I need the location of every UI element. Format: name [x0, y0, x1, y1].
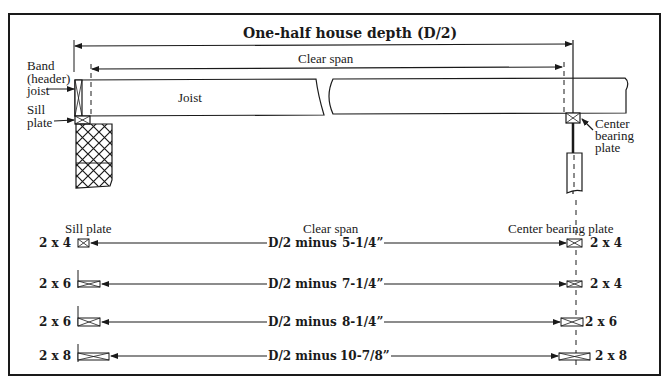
row3-center-size: 2 x 6: [585, 316, 617, 328]
clear-span-dimension-line: [92, 67, 562, 69]
row4-sill-size: 2 x 8: [39, 350, 71, 362]
header-sill-plate: Sill plate: [65, 222, 112, 235]
foundation-wall: [76, 124, 112, 188]
header-clear-span: Clear span: [303, 222, 358, 235]
center-bearing-label-line3: plate: [595, 141, 620, 154]
row3-clear-span-prefix: D/2 minus: [267, 316, 338, 328]
row1-center-size: 2 x 4: [590, 237, 622, 249]
row1-clear-span-prefix: D/2 minus: [267, 237, 338, 249]
row3-clear-span-value: 8-1/4”: [341, 316, 384, 328]
row2-sill-size: 2 x 6: [39, 278, 71, 290]
joist-label: Joist: [178, 91, 202, 104]
row2-clear-span-prefix: D/2 minus: [267, 278, 338, 290]
header-center-bearing-plate: Center bearing plate: [508, 222, 613, 235]
row2-clear-span-value: 7-1/4”: [341, 278, 384, 290]
row4-clear-span-value: 10-7/8”: [339, 350, 391, 362]
half-depth-dimension-line: [75, 44, 572, 46]
joist-right: [329, 78, 628, 114]
row4-center-size: 2 x 8: [595, 350, 627, 362]
half-depth-title: One-half house depth (D/2): [243, 26, 457, 40]
row1-clear-span-value: 5-1/4”: [341, 237, 384, 249]
clear-span-label: Clear span: [298, 52, 353, 65]
row4-clear-span-prefix: D/2 minus: [267, 350, 338, 362]
row3-sill-size: 2 x 6: [39, 316, 71, 328]
row2-center-size: 2 x 4: [590, 278, 622, 290]
sill-plate-label-line2: plate: [27, 116, 52, 129]
band-joist-label-line3: joist: [27, 84, 49, 97]
row1-sill-size: 2 x 4: [39, 237, 71, 249]
